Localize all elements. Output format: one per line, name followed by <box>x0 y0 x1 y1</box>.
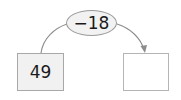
result-answer-box[interactable] <box>123 53 169 91</box>
number-operation-diagram: −18 49 <box>0 0 181 100</box>
start-value: 49 <box>30 62 52 82</box>
right-connector-arc <box>117 24 144 50</box>
operation-label: −18 <box>74 13 110 33</box>
arrowhead-icon <box>141 45 148 53</box>
left-connector-arc <box>41 24 67 53</box>
operation-ellipse: −18 <box>66 10 117 36</box>
start-value-box: 49 <box>17 53 64 91</box>
